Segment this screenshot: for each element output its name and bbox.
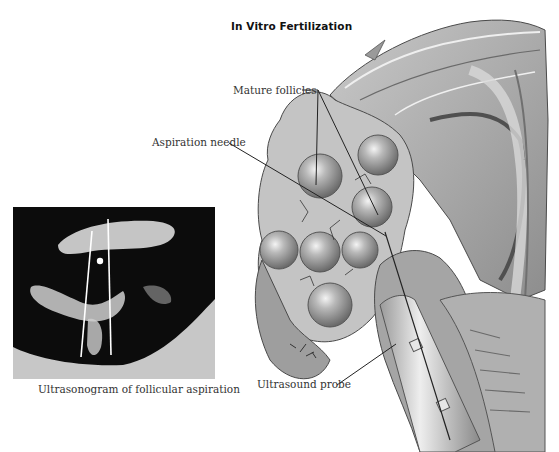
mature-follicles-label: Mature follicles <box>233 84 317 96</box>
ultrasonogram-caption: Ultrasonogram of follicular aspiration <box>38 383 240 395</box>
aspiration-needle-label: Aspiration needle <box>152 136 246 148</box>
ultrasonogram-inset <box>13 207 215 379</box>
ultrasound-probe-label: Ultrasound probe <box>257 378 351 390</box>
needle-tip-marker <box>97 258 103 264</box>
